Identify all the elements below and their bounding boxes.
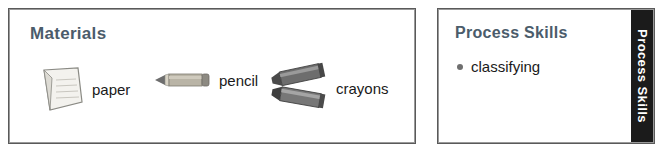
material-label-paper: paper [92,81,130,98]
process-skills-panel: Process Skills classifying Process Skill… [437,8,655,144]
material-label-pencil: pencil [219,72,258,89]
material-label-crayons: crayons [336,80,389,97]
process-skill-label: classifying [471,58,540,75]
process-skills-side-tab: Process Skills [631,10,653,142]
list-item: classifying [457,58,540,75]
material-item-crayons: crayons [268,62,389,114]
bullet-icon [457,64,463,70]
worksheet-page: Materials paper [0,0,663,164]
materials-title: Materials [30,24,106,44]
pencil-icon [153,70,213,90]
materials-panel: Materials paper [8,8,416,144]
material-item-paper: paper [38,66,130,112]
paper-sheet-icon [38,66,86,112]
process-skills-title: Process Skills [455,24,568,42]
crayons-icon [268,62,330,114]
process-skills-list: classifying [457,58,540,75]
materials-items-row: paper pencil [28,60,398,120]
process-skills-side-tab-label: Process Skills [635,29,650,123]
material-item-pencil: pencil [153,70,258,90]
